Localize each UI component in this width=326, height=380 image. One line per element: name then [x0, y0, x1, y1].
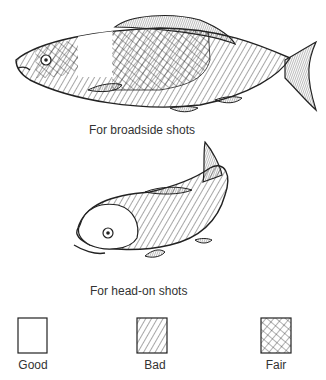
legend-label-good: Good: [3, 358, 63, 372]
legend-swatch-fair: [261, 318, 291, 353]
legend-label-bad: Bad: [125, 358, 185, 372]
legend-label-fair: Fair: [246, 358, 306, 372]
legend-swatch-bad: [137, 318, 167, 353]
head-on-fish: [74, 142, 228, 257]
caption-head-on: For head-on shots: [90, 284, 187, 298]
legend-swatch-good: [18, 318, 47, 353]
broadside-fish: [16, 16, 316, 112]
fish-shot-diagram: [0, 0, 326, 380]
caption-broadside: For broadside shots: [89, 123, 195, 137]
